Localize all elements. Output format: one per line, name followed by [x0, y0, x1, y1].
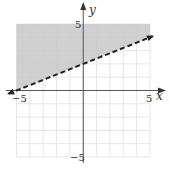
y-tick-min: −5	[70, 152, 85, 163]
x-tick-max: 5	[146, 93, 152, 104]
y-tick-max: 5	[75, 19, 81, 30]
x-axis-label: x	[156, 89, 163, 103]
y-axis-label: y	[88, 3, 96, 17]
y-axis-arrow-icon	[80, 2, 86, 10]
inequality-graph: x y −5 5 5 −5	[0, 0, 170, 169]
x-tick-min: −5	[12, 93, 27, 104]
